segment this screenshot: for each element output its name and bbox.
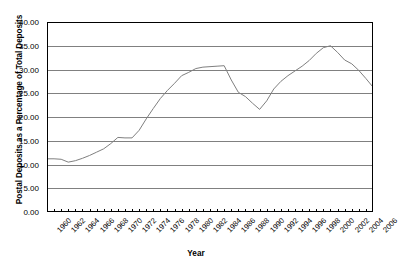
x-tick-label: 2006 <box>381 216 399 234</box>
x-axis-title: Year <box>0 249 392 258</box>
